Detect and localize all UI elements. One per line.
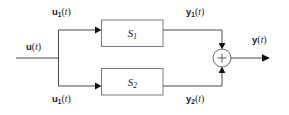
block-s1-label: S1 — [128, 27, 137, 39]
block-diagram-figure: u(t) u1(t) u1(t) S1 S2 y1(t) y2(t) y(t) — [0, 0, 289, 115]
label-output-signal: y(t) — [252, 35, 267, 46]
diagram-canvas — [0, 0, 289, 115]
label-branch-lower-signal: u1(t) — [52, 94, 71, 105]
arrowhead-output — [262, 54, 270, 62]
block-s2: S2 — [102, 69, 164, 96]
label-branch-upper-signal: u1(t) — [52, 7, 71, 18]
label-input-signal: u(t) — [26, 42, 41, 53]
label-output-upper-signal: y1(t) — [186, 7, 204, 18]
block-s1: S1 — [102, 20, 164, 47]
label-output-lower-signal: y2(t) — [186, 94, 204, 105]
block-s2-label: S2 — [128, 76, 137, 88]
